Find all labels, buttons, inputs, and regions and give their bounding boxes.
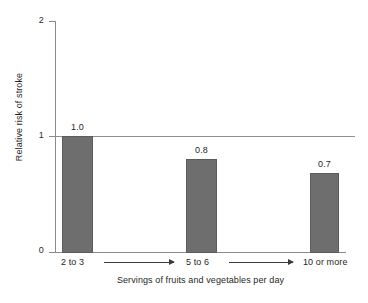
bar-chart-figure: 2 1 0 1.0 0.8 0.7 2 to 3 5 to 6 10 or mo…: [0, 0, 368, 303]
y-axis-tick-2: [49, 21, 55, 22]
bar-2-to-3: [62, 136, 93, 253]
x-axis-title: Servings of fruits and vegetables per da…: [55, 275, 346, 285]
plot-area: 2 1 0 1.0 0.8 0.7 2 to 3 5 to 6 10 or mo…: [0, 0, 368, 303]
bar-value-label-5-to-6: 0.8: [186, 145, 217, 155]
y-axis-tick-label-2: 2: [20, 15, 44, 25]
bar-5-to-6: [186, 159, 217, 253]
x-axis-category-label-2-to-3: 2 to 3: [61, 257, 84, 267]
bar-10-or-more: [310, 173, 339, 253]
y-axis-title: Relative risk of stroke: [14, 57, 24, 177]
bar-value-label-2-to-3: 1.0: [62, 122, 93, 132]
x-axis-category-label-10-or-more: 10 or more: [303, 257, 348, 267]
y-axis-tick-0: [49, 252, 55, 253]
x-axis-category-label-5-to-6: 5 to 6: [186, 257, 209, 267]
y-axis-tick-1: [49, 136, 55, 137]
category-arrow-second: [229, 262, 293, 263]
reference-line-at-one: [55, 136, 355, 137]
category-arrow-first: [104, 262, 174, 263]
bar-value-label-10-or-more: 0.7: [310, 159, 339, 169]
y-axis-tick-label-0: 0: [20, 245, 44, 255]
